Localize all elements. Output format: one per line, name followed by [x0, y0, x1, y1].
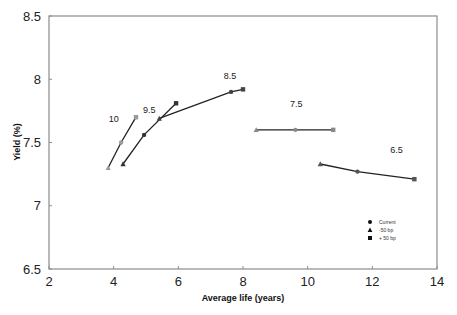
- circle-marker-icon: [142, 133, 146, 137]
- series-9-5: 9.5: [120, 101, 178, 166]
- x-tick-label: 2: [45, 274, 52, 289]
- square-marker-icon: [174, 101, 178, 105]
- series-6-5: 6.5: [318, 145, 417, 182]
- legend: Current-50 bp+ 50 bp: [368, 219, 397, 241]
- x-tick-label: 4: [110, 274, 117, 289]
- square-marker-icon: [412, 177, 416, 181]
- y-axis: 6.577.588.5: [23, 9, 52, 277]
- circle-marker-icon: [355, 169, 359, 173]
- legend-label: Current: [379, 219, 396, 225]
- triangle-marker-icon: [368, 228, 373, 232]
- x-tick-label: 12: [365, 274, 379, 289]
- triangle-marker-icon: [106, 165, 111, 170]
- circle-marker-icon: [293, 128, 297, 132]
- square-marker-icon: [368, 236, 372, 240]
- y-tick-label: 8: [34, 72, 41, 87]
- circle-marker-icon: [229, 90, 233, 94]
- y-tick-label: 8.5: [23, 9, 41, 24]
- x-axis-title: Average life (years): [202, 293, 285, 303]
- legend-label: -50 bp: [379, 227, 393, 233]
- x-tick-label: 10: [300, 274, 314, 289]
- series-line: [320, 164, 414, 179]
- series-label: 10: [109, 114, 119, 124]
- circle-marker-icon: [368, 220, 372, 224]
- circle-marker-icon: [119, 140, 123, 144]
- square-marker-icon: [134, 115, 138, 119]
- series-10: 10: [106, 114, 139, 170]
- square-marker-icon: [241, 87, 245, 91]
- series-7-5: 7.5: [254, 99, 336, 132]
- series-label: 6.5: [390, 145, 403, 155]
- legend-item: -50 bp: [368, 227, 394, 233]
- y-tick-label: 7: [34, 198, 41, 213]
- legend-item: Current: [368, 219, 396, 225]
- chart: 6.577.588.5 2468101214 109.58.57.56.5 Cu…: [0, 0, 457, 315]
- x-tick-label: 14: [430, 274, 444, 289]
- series-label: 7.5: [290, 99, 303, 109]
- y-tick-label: 6.5: [23, 262, 41, 277]
- series-8-5: 8.5: [157, 71, 246, 120]
- y-tick-label: 7.5: [23, 135, 41, 150]
- series-label: 8.5: [224, 71, 237, 81]
- series-label: 9.5: [143, 105, 156, 115]
- y-axis-title: Yield (%): [12, 123, 22, 161]
- legend-label: + 50 bp: [379, 235, 396, 241]
- square-marker-icon: [331, 128, 335, 132]
- x-tick-label: 6: [175, 274, 182, 289]
- legend-item: + 50 bp: [368, 235, 396, 241]
- x-tick-label: 8: [239, 274, 246, 289]
- series-layer: 109.58.57.56.5: [106, 71, 417, 181]
